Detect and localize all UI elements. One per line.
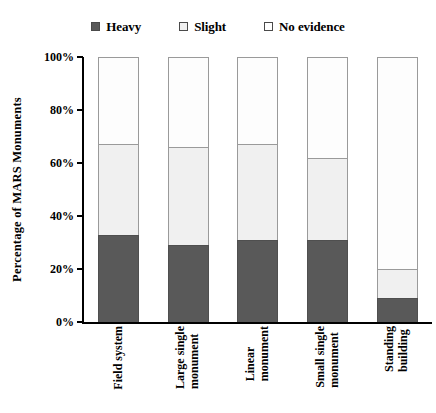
bar-segment-slight[interactable] <box>237 144 278 239</box>
x-axis-label-slot: Small singlemonument <box>293 324 363 413</box>
y-axis-tick-labels: 100%80%60%40%20%0% <box>30 57 78 322</box>
stacked-bar[interactable] <box>307 57 348 322</box>
stacked-bar-chart: Heavy Slight No evidence Percentage of M… <box>0 0 436 413</box>
legend-label-heavy: Heavy <box>106 20 141 33</box>
bar-segment-heavy[interactable] <box>237 240 278 322</box>
bar-segment-slight[interactable] <box>307 158 348 240</box>
y-axis-tick-label: 0% <box>56 316 74 328</box>
x-axis-label-slot: Linearmonument <box>223 324 293 413</box>
y-axis-tick-mark <box>77 321 83 323</box>
stacked-bar[interactable] <box>377 57 418 322</box>
bar-segment-heavy[interactable] <box>377 298 418 322</box>
stacked-bar[interactable] <box>237 57 278 322</box>
bar-segment-heavy[interactable] <box>168 245 209 322</box>
bar-segment-no-evidence[interactable] <box>98 57 139 144</box>
y-axis-tick-label: 40% <box>50 210 74 222</box>
x-axis-label-line-1: Linear <box>243 347 257 382</box>
x-axis-category-label: Small singlemonument <box>314 326 342 388</box>
plot-area <box>84 57 432 322</box>
x-axis-label-slot: Large singlemonument <box>154 324 224 413</box>
x-axis-category-label: Large singlemonument <box>175 326 203 389</box>
bar-slot <box>223 57 293 322</box>
bar-segment-slight[interactable] <box>98 144 139 234</box>
bar-slot <box>154 57 224 322</box>
x-axis-label-line-1: Large single <box>174 326 188 389</box>
stacked-bar[interactable] <box>98 57 139 322</box>
legend-label-no-evidence: No evidence <box>279 20 345 33</box>
legend-swatch-heavy <box>91 22 100 31</box>
legend-swatch-slight <box>179 22 188 31</box>
x-axis-label-line-1: Standing <box>382 326 396 372</box>
legend-item-heavy: Heavy <box>91 20 141 33</box>
y-axis-tick-label: 20% <box>50 263 74 275</box>
bar-segment-heavy[interactable] <box>307 240 348 322</box>
x-axis-category-label: Standingbuilding <box>383 326 411 372</box>
bar-segment-slight[interactable] <box>168 147 209 245</box>
y-axis-title-text: Percentage of MARS Monuments <box>10 97 25 282</box>
legend-item-slight: Slight <box>179 20 226 33</box>
chart-legend: Heavy Slight No evidence <box>0 14 436 38</box>
bar-segment-no-evidence[interactable] <box>237 57 278 144</box>
y-axis-tick-label: 100% <box>44 51 74 63</box>
x-axis-label-line-2: monument <box>258 326 272 381</box>
y-axis-tick-mark <box>77 162 83 164</box>
y-axis-tick-mark <box>77 109 83 111</box>
x-axis-label-line-1: Small single <box>313 326 327 388</box>
legend-item-no-evidence: No evidence <box>264 20 345 33</box>
legend-swatch-no-evidence <box>264 22 273 31</box>
bar-series-container <box>84 57 432 322</box>
bar-segment-no-evidence[interactable] <box>168 57 209 147</box>
bar-segment-heavy[interactable] <box>98 235 139 322</box>
x-axis-label-line-2: building <box>397 326 411 372</box>
x-axis-label-line-2: monument <box>188 326 202 389</box>
bar-segment-slight[interactable] <box>377 269 418 298</box>
bar-segment-no-evidence[interactable] <box>307 57 348 158</box>
y-axis-title: Percentage of MARS Monuments <box>6 57 28 322</box>
bar-slot <box>362 57 432 322</box>
y-axis-tick-mark <box>77 268 83 270</box>
x-axis-label-line-2: monument <box>328 326 342 388</box>
y-axis-tick-mark <box>77 56 83 58</box>
x-axis-category-labels: Field systemLarge singlemonumentLinearmo… <box>84 324 432 413</box>
x-axis-category-label: Linearmonument <box>244 326 272 381</box>
x-axis-label-slot: Field system <box>84 324 154 413</box>
x-axis-label-line-1: Field system <box>111 326 125 390</box>
x-axis-category-label: Field system <box>112 326 126 390</box>
y-axis-tick-label: 80% <box>50 104 74 116</box>
legend-label-slight: Slight <box>194 20 226 33</box>
x-axis-label-slot: Standingbuilding <box>362 324 432 413</box>
bar-segment-no-evidence[interactable] <box>377 57 418 269</box>
y-axis-tick-mark <box>77 215 83 217</box>
y-axis-tick-label: 60% <box>50 157 74 169</box>
bar-slot <box>293 57 363 322</box>
stacked-bar[interactable] <box>168 57 209 322</box>
bar-slot <box>84 57 154 322</box>
